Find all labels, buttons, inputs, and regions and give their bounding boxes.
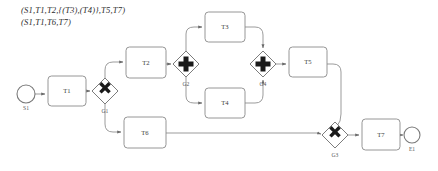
gateway-g2-label: G2	[183, 81, 190, 87]
task-t5-label: T5	[304, 58, 312, 65]
end-event-e1-label: E1	[409, 146, 415, 152]
gateway-g1-label: G1	[102, 108, 109, 114]
gateway-g3-exclusive[interactable]: G3	[322, 122, 348, 158]
bpmn-diagram-canvas: (S1,T1,T2,{(T3),(T4)},T5,T7) (S1,T1,T6,T…	[0, 0, 438, 171]
flow-t3-g4	[245, 27, 263, 48]
flow-g1-t2	[105, 62, 123, 78]
sequence-flow-layer	[35, 27, 403, 135]
start-event-s1-label: S1	[23, 105, 29, 111]
process-flow-graph: T1 T2 T3 T4 T5 T6	[0, 0, 438, 171]
gateway-g4-label: G4	[260, 81, 267, 87]
task-t3[interactable]: T3	[205, 12, 245, 42]
gateway-g2-parallel[interactable]: G2	[173, 51, 199, 87]
task-t2[interactable]: T2	[126, 47, 166, 78]
gateway-g4-parallel[interactable]: G4	[250, 51, 276, 87]
gateway-g3-label: G3	[332, 152, 339, 158]
task-t4-label: T4	[221, 99, 229, 106]
task-layer: T1 T2 T3 T4 T5 T6	[48, 12, 400, 150]
task-t4[interactable]: T4	[205, 88, 245, 118]
flow-t5-g3	[327, 64, 341, 130]
task-t3-label: T3	[221, 23, 229, 30]
task-t1[interactable]: T1	[48, 76, 86, 106]
flow-g2-t3	[186, 27, 202, 51]
task-t6[interactable]: T6	[124, 117, 166, 148]
task-t2-label: T2	[142, 59, 149, 66]
task-t7[interactable]: T7	[362, 119, 400, 150]
task-t7-label: T7	[377, 131, 385, 138]
start-event-s1[interactable]: S1	[17, 85, 35, 111]
gateway-g1-exclusive[interactable]: G1	[92, 78, 118, 114]
task-t5[interactable]: T5	[289, 47, 327, 77]
end-event-e1[interactable]: E1	[404, 127, 420, 152]
flow-t6-g3	[166, 133, 321, 134]
task-t1-label: T1	[63, 87, 70, 94]
task-t6-label: T6	[141, 129, 149, 136]
